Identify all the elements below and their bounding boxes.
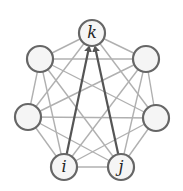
node-label: i (61, 157, 66, 176)
node-label: k (87, 23, 97, 42)
node-l (15, 104, 41, 130)
node-i: i (51, 154, 77, 180)
nodes: kji (15, 20, 169, 180)
node-circle (143, 105, 169, 131)
node-circle (133, 46, 159, 72)
node-ur (133, 46, 159, 72)
node-k: k (79, 20, 105, 46)
node-circle (27, 46, 53, 72)
arrows (67, 47, 119, 155)
node-circle (15, 104, 41, 130)
complete-graph-diagram: kji (0, 0, 183, 191)
edge-r-l (28, 117, 156, 118)
node-r (143, 105, 169, 131)
node-j: j (108, 154, 134, 180)
node-ul (27, 46, 53, 72)
